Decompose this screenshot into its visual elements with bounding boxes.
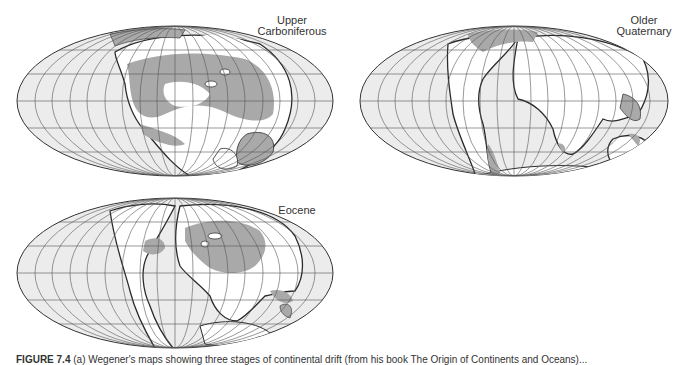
label-line-2: Quaternary <box>610 26 678 37</box>
label-line-2: Carboniferous <box>252 26 332 37</box>
map-label-eocene: Eocene <box>272 205 322 216</box>
label-line-1: Eocene <box>272 205 322 216</box>
map-upper-carboniferous <box>15 24 335 179</box>
map-label-older-quaternary: Older Quaternary <box>610 15 678 37</box>
figure-number: FIGURE 7.4 <box>16 354 70 365</box>
figure-caption: FIGURE 7.4 (a) Wegener's maps showing th… <box>16 354 676 365</box>
mollweide-globe <box>358 24 670 179</box>
map-eocene <box>15 196 335 351</box>
map-label-upper-carboniferous: Upper Carboniferous <box>252 15 332 37</box>
mollweide-globe <box>15 196 335 351</box>
mollweide-globe <box>15 24 335 179</box>
map-older-quaternary <box>358 24 670 179</box>
caption-text: (a) Wegener's maps showing three stages … <box>73 354 587 365</box>
